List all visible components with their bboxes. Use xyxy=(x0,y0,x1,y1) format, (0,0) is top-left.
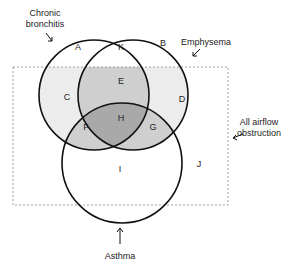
airflow-obstruction-caption-line1: All airflow xyxy=(240,117,279,127)
region-c-label: C xyxy=(64,92,71,102)
venn-diagram: A K B E C D F H G I J Chronic bronchitis… xyxy=(0,0,299,266)
region-j-label: J xyxy=(197,159,202,169)
chronic-bronchitis-caption-line1: Chronic xyxy=(29,8,61,18)
region-k-label: K xyxy=(118,42,124,52)
chronic-bronchitis-caption-line2: bronchitis xyxy=(26,19,65,29)
region-b-label: B xyxy=(160,38,166,48)
emphysema-caption: Emphysema xyxy=(181,37,231,47)
chronic-bronchitis-arrow-icon xyxy=(46,33,52,41)
region-a-label: A xyxy=(75,42,81,52)
airflow-obstruction-caption-line2: obstruction xyxy=(237,128,281,138)
region-h-label: H xyxy=(118,113,125,123)
region-g-label: G xyxy=(149,122,156,132)
emphysema-arrow-icon xyxy=(193,49,200,56)
asthma-caption: Asthma xyxy=(105,251,136,261)
region-i-label: I xyxy=(119,164,122,174)
region-e-label: E xyxy=(118,76,124,86)
region-d-label: D xyxy=(179,94,186,104)
region-f-label: F xyxy=(83,122,89,132)
asthma-arrow-icon xyxy=(117,228,123,244)
